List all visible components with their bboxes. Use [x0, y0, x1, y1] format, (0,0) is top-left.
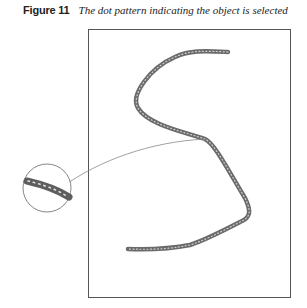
selected-curve-illustration — [0, 0, 307, 308]
callout-arrow — [62, 139, 205, 187]
selected-s-curve[interactable] — [128, 51, 249, 249]
magnifier-circle — [23, 164, 71, 212]
